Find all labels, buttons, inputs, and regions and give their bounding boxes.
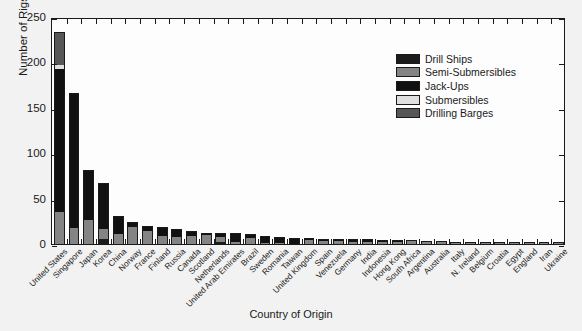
y-tick-label: 150 (8, 103, 46, 115)
legend-label: Drill Ships (425, 53, 472, 65)
y-tick-label: 100 (8, 148, 46, 160)
legend-label: Jack-Ups (425, 80, 469, 92)
legend-swatch-icon (396, 54, 420, 64)
x-axis-tick-labels: United StatesSingaporeJapanKoreaChinaNor… (51, 247, 565, 309)
legend-item-jack-ups[interactable]: Jack-Ups (396, 79, 556, 93)
legend-swatch-icon (396, 67, 420, 77)
y-axis-title: Number of Rigs (17, 0, 29, 76)
legend-item-submersibles[interactable]: Submersibles (396, 93, 556, 107)
legend: Drill ShipsSemi-SubmersiblesJack-UpsSubm… (396, 52, 556, 120)
legend-label: Drilling Barges (425, 107, 493, 119)
y-tick-label: 0 (8, 239, 46, 251)
legend-item-drilling-barges[interactable]: Drilling Barges (396, 106, 556, 120)
legend-item-drill-ships[interactable]: Drill Ships (396, 52, 556, 66)
legend-label: Semi-Submersibles (425, 66, 516, 78)
figure-canvas: 050100150200250 Number of Rigs United St… (0, 0, 582, 331)
y-tick-label: 50 (8, 194, 46, 206)
legend-swatch-icon (396, 95, 420, 105)
legend-label: Submersibles (425, 94, 489, 106)
x-axis-title: Country of Origin (0, 308, 582, 320)
legend-swatch-icon (396, 81, 420, 91)
legend-swatch-icon (396, 108, 420, 118)
legend-item-semi-submersibles[interactable]: Semi-Submersibles (396, 66, 556, 80)
